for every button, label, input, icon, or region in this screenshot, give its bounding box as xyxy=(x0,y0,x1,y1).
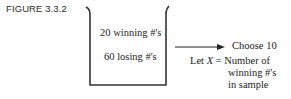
random-variable-definition: Let X = Number of winning #'s in sample xyxy=(190,55,276,91)
arrow-right-icon xyxy=(175,44,225,50)
definition-line2: winning #'s xyxy=(190,67,276,79)
urn-winning-count: 20 winning #'s xyxy=(100,27,161,38)
definition-line3: in sample xyxy=(190,79,276,91)
definition-prefix: Let xyxy=(190,55,207,66)
choose-label: Choose 10 xyxy=(232,40,277,51)
definition-equals: = Number of xyxy=(213,55,270,66)
urn-losing-count: 60 losing #'s xyxy=(104,51,157,62)
